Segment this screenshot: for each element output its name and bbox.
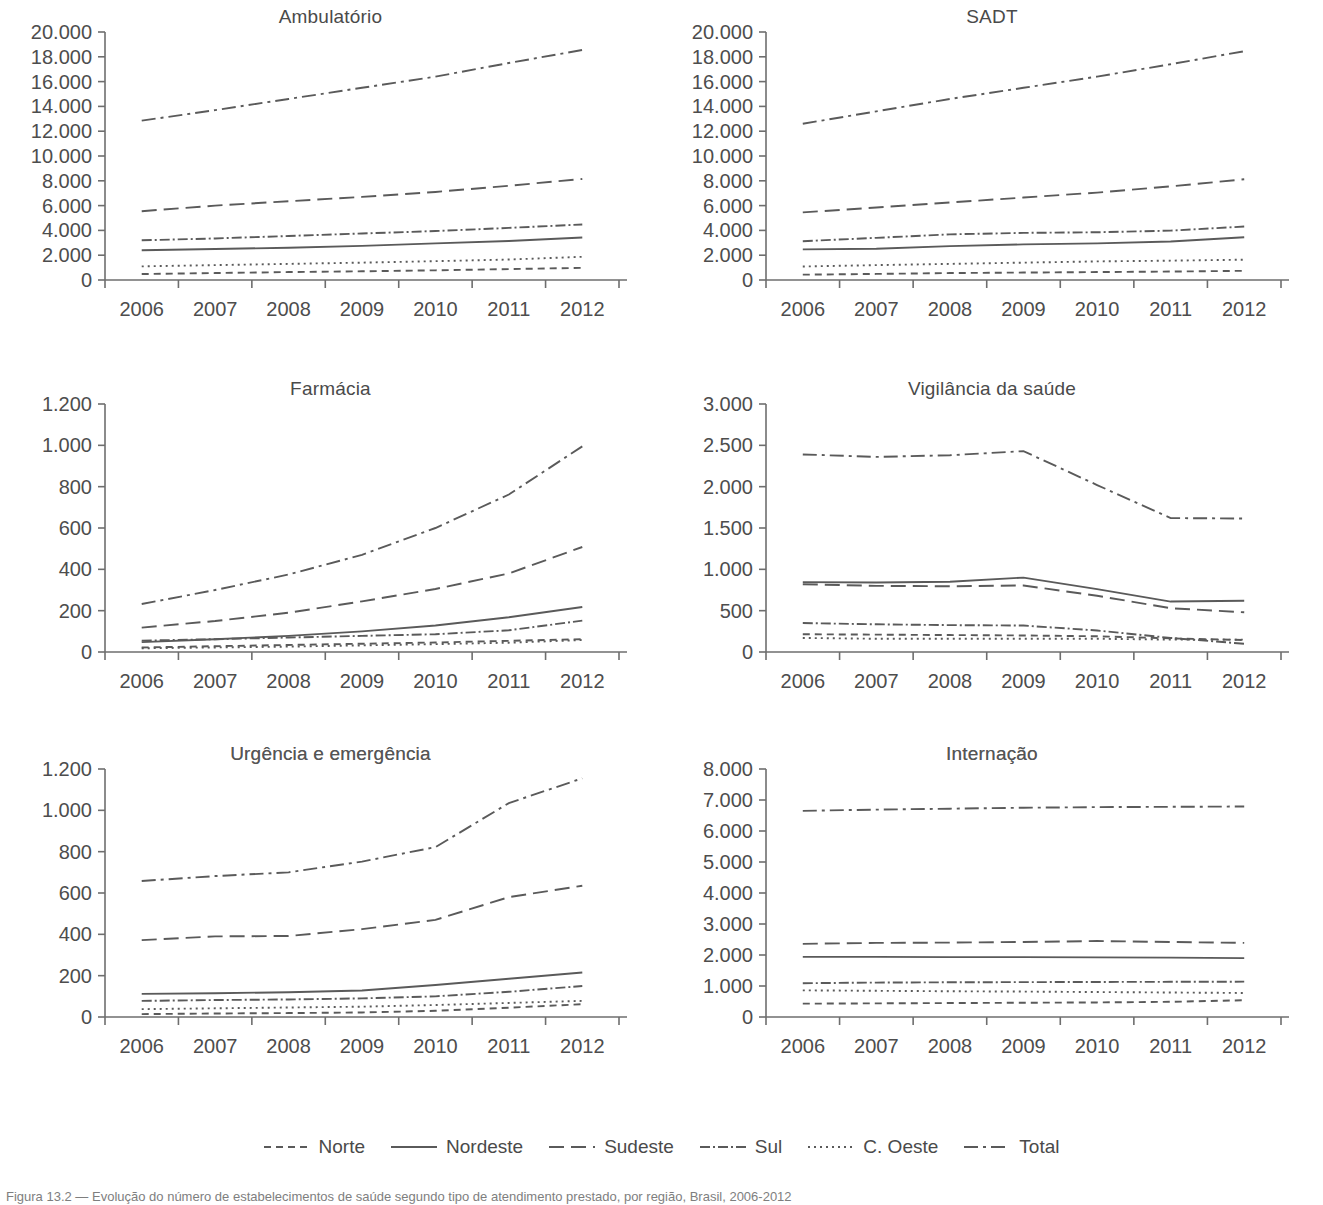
x-tick-label: 2006 — [119, 298, 164, 320]
y-tick-label: 0 — [742, 641, 753, 663]
legend-item-norte[interactable]: Norte — [264, 1136, 365, 1158]
x-tick-label: 2012 — [1222, 670, 1267, 692]
series-line-norte — [803, 271, 1244, 275]
y-tick-label: 400 — [59, 558, 92, 580]
y-tick-label: 18.000 — [31, 46, 92, 68]
series-line-nordeste — [803, 237, 1244, 249]
y-tick-label: 1.200 — [42, 394, 92, 415]
legend-swatch-sul — [700, 1141, 746, 1153]
y-tick-label: 0 — [742, 269, 753, 291]
legend-item-sul[interactable]: Sul — [700, 1136, 782, 1158]
legend-item-coeste[interactable]: C. Oeste — [808, 1136, 938, 1158]
x-tick-label: 2010 — [413, 298, 458, 320]
y-tick-label: 4.000 — [42, 219, 92, 241]
series-line-sudeste — [142, 179, 583, 211]
series-line-sudeste — [803, 941, 1244, 944]
x-tick-label: 2007 — [193, 670, 238, 692]
panel-sadt: SADT 02.0004.0006.0008.00010.00012.00014… — [661, 0, 1323, 372]
x-tick-label: 2012 — [1222, 298, 1267, 320]
x-tick-label: 2009 — [1001, 670, 1046, 692]
x-tick-label: 2006 — [119, 1035, 164, 1057]
y-tick-label: 6.000 — [42, 195, 92, 217]
series-line-sul — [803, 227, 1244, 242]
legend-label-total: Total — [1019, 1136, 1059, 1158]
y-tick-label: 2.000 — [703, 476, 753, 498]
y-tick-label: 12.000 — [31, 120, 92, 142]
x-tick-label: 2009 — [1001, 298, 1046, 320]
x-tick-label: 2007 — [854, 1035, 899, 1057]
x-tick-label: 2011 — [487, 670, 530, 692]
x-tick-label: 2008 — [928, 298, 973, 320]
x-tick-label: 2008 — [928, 670, 973, 692]
chart-canvas-sadt: 02.0004.0006.0008.00010.00012.00014.0001… — [661, 22, 1323, 352]
series-line-sul — [142, 224, 583, 240]
legend-swatch-sudeste — [549, 1141, 595, 1153]
y-tick-label: 1.000 — [703, 975, 753, 997]
y-tick-label: 200 — [59, 600, 92, 622]
x-tick-label: 2008 — [928, 1035, 973, 1057]
x-tick-label: 2011 — [487, 1035, 530, 1057]
y-tick-label: 2.000 — [703, 244, 753, 266]
y-tick-label: 16.000 — [692, 71, 753, 93]
x-tick-label: 2011 — [1149, 1035, 1192, 1057]
x-tick-label: 2012 — [560, 298, 605, 320]
y-tick-label: 14.000 — [692, 95, 753, 117]
x-tick-label: 2006 — [119, 670, 164, 692]
legend-label-sul: Sul — [755, 1136, 782, 1158]
y-tick-label: 1.000 — [703, 558, 753, 580]
legend-label-norte: Norte — [319, 1136, 365, 1158]
x-tick-label: 2010 — [413, 1035, 458, 1057]
y-tick-label: 0 — [81, 1006, 92, 1028]
chart-canvas-ambulatorio: 02.0004.0006.0008.00010.00012.00014.0001… — [0, 22, 661, 352]
panel-farmacia: Farmácia 02004006008001.0001.20020062007… — [0, 372, 661, 737]
x-tick-label: 2009 — [1001, 1035, 1046, 1057]
x-tick-label: 2009 — [340, 1035, 385, 1057]
y-tick-label: 1.500 — [703, 517, 753, 539]
series-line-coeste — [803, 260, 1244, 267]
x-tick-label: 2006 — [781, 298, 826, 320]
y-tick-label: 16.000 — [31, 71, 92, 93]
x-tick-label: 2008 — [266, 298, 311, 320]
figure-caption: Figura 13.2 — Evolução do número de esta… — [6, 1189, 1317, 1204]
x-tick-label: 2012 — [560, 670, 605, 692]
y-tick-label: 14.000 — [31, 95, 92, 117]
y-tick-label: 800 — [59, 841, 92, 863]
legend-swatch-norte — [264, 1141, 310, 1153]
y-tick-label: 8.000 — [42, 170, 92, 192]
legend-label-coeste: C. Oeste — [863, 1136, 938, 1158]
x-tick-label: 2009 — [340, 298, 385, 320]
x-tick-label: 2008 — [266, 670, 311, 692]
series-line-total — [803, 451, 1244, 518]
x-tick-label: 2011 — [1149, 298, 1192, 320]
y-tick-label: 10.000 — [692, 145, 753, 167]
legend-swatch-total — [964, 1141, 1010, 1153]
y-tick-label: 0 — [742, 1006, 753, 1028]
legend-item-total[interactable]: Total — [964, 1136, 1059, 1158]
y-tick-label: 10.000 — [31, 145, 92, 167]
y-tick-label: 1.000 — [42, 434, 92, 456]
x-tick-label: 2010 — [1075, 670, 1120, 692]
x-tick-label: 2012 — [1222, 1035, 1267, 1057]
series-line-norte — [142, 268, 583, 274]
y-tick-label: 20.000 — [31, 22, 92, 43]
y-tick-label: 7.000 — [703, 789, 753, 811]
y-tick-label: 2.500 — [703, 434, 753, 456]
legend-swatch-coeste — [808, 1141, 854, 1153]
y-tick-label: 600 — [59, 882, 92, 904]
series-line-sudeste — [142, 886, 583, 940]
series-line-total — [142, 778, 583, 881]
legend-item-nordeste[interactable]: Nordeste — [391, 1136, 523, 1158]
x-tick-label: 2009 — [340, 670, 385, 692]
legend-label-nordeste: Nordeste — [446, 1136, 523, 1158]
series-line-total — [803, 807, 1244, 811]
y-tick-label: 1.000 — [42, 799, 92, 821]
chart-canvas-vigilancia: 05001.0001.5002.0002.5003.00020062007200… — [661, 394, 1323, 724]
y-tick-label: 2.000 — [703, 944, 753, 966]
panel-vigilancia: Vigilância da saúde 05001.0001.5002.0002… — [661, 372, 1323, 737]
series-line-sul — [803, 623, 1244, 644]
y-tick-label: 4.000 — [703, 219, 753, 241]
y-tick-label: 0 — [81, 641, 92, 663]
legend-item-sudeste[interactable]: Sudeste — [549, 1136, 674, 1158]
x-tick-label: 2010 — [1075, 298, 1120, 320]
y-tick-label: 6.000 — [703, 195, 753, 217]
